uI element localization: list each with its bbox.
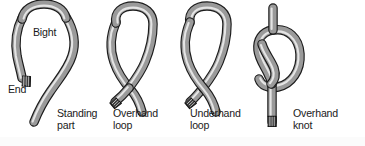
label-standing-part: Standing part — [57, 108, 97, 131]
bottom-edge-tint — [0, 137, 365, 146]
bight-end-leg — [15, 18, 22, 78]
overhand-working-end — [110, 87, 129, 108]
label-underhand-loop: Underhand loop — [190, 108, 241, 131]
knot-standing-part — [272, 8, 273, 30]
label-overhand-knot: Overhand knot — [293, 108, 338, 131]
label-overhand-loop: Overhand loop — [113, 108, 158, 131]
rope-terminology-figure: Bight End Standing part Overhand loop Un… — [0, 0, 365, 146]
figure-bight — [15, 4, 74, 122]
figure-overhand-loop — [110, 6, 153, 112]
label-bight: Bight — [33, 27, 56, 39]
figure-underhand-loop — [184, 6, 227, 112]
label-end: End — [8, 84, 26, 96]
bight-curve — [22, 4, 66, 19]
